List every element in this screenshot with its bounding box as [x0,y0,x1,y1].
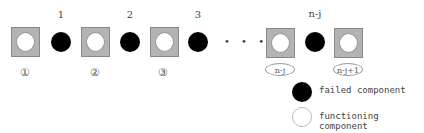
gap-label-n-j: n-j [300,8,330,19]
ellipsis: • • • [224,36,268,47]
functioning-block-n-j-plus-1 [334,28,363,58]
functioning-circle [86,32,105,52]
gap-label-1: 1 [46,9,76,20]
block-label-2: ② [85,66,105,79]
gap-label-3: 3 [183,9,213,20]
legend-functioning-label: functioning component [319,111,424,131]
block-label-n-j-plus-1: n-j+1 [333,63,363,76]
failed-component-1 [51,32,71,52]
legend-failed-icon [292,82,312,102]
block-label-n-j: n-j [265,63,295,76]
legend-failed-label: failed component [319,85,406,95]
functioning-circle [339,33,358,53]
failed-component-2 [120,32,140,52]
functioning-circle [155,32,174,52]
functioning-block-3 [150,27,179,57]
functioning-block-2 [81,27,110,57]
gap-label-2: 2 [115,9,145,20]
legend-functioning-icon [292,107,312,127]
block-label-1: ① [15,66,35,79]
functioning-block-n-j [266,28,295,58]
functioning-circle [271,33,290,53]
failed-component-3 [188,32,208,52]
functioning-block-1 [11,27,40,57]
block-label-3: ③ [153,66,173,79]
failed-component-n-j [305,32,325,52]
functioning-circle [16,32,35,52]
